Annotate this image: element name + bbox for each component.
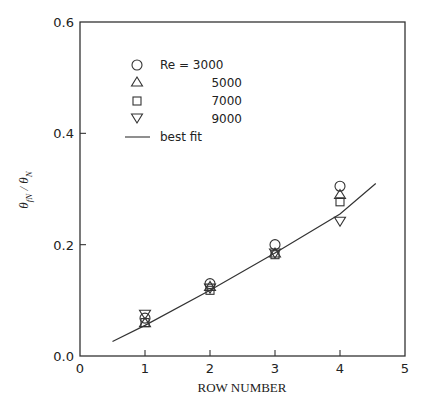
y-tick-label: 0.2 [53,238,74,253]
axis-ticks [80,133,340,356]
legend-item-re7000: 7000 [133,94,242,108]
square-marker-icon [133,97,141,105]
legend-item-re5000: 5000 [132,76,243,90]
y-tick-label: 0.0 [53,349,74,364]
svg-text:9000: 9000 [211,112,242,126]
legend-item-best-fit: best fit [125,130,202,144]
axis-tick-labels: 0123450.00.20.40.6 [53,15,409,376]
svg-text:7000: 7000 [211,94,242,108]
plot-frame [80,22,405,356]
svg-text:5000: 5000 [211,76,242,90]
triangle-down-marker-icon [335,217,346,226]
x-axis-title: ROW NUMBER [198,380,287,395]
legend-item-re3000: Re = 3000 [132,58,223,72]
legend-item-re9000: 9000 [132,112,243,126]
svg-text:best fit: best fit [160,130,202,144]
y-tick-label: 0.4 [53,126,74,141]
data-markers [140,181,346,326]
best-fit-curve [113,183,376,341]
x-tick-label: 5 [401,361,409,376]
x-tick-label: 2 [206,361,214,376]
y-axis-title: θfN / θN [16,170,34,208]
x-tick-label: 0 [76,361,84,376]
chart: 0123450.00.20.40.6 ROW NUMBER θfN / θN R… [0,0,426,411]
triangle-down-marker-icon [132,114,143,123]
circle-marker-icon [132,60,142,70]
svg-text:θfN / θN: θfN / θN [16,170,34,208]
triangle-up-marker-icon [132,77,143,86]
x-tick-label: 3 [271,361,279,376]
svg-text:Re = 3000: Re = 3000 [160,58,223,72]
x-tick-label: 4 [336,361,344,376]
best-fit-line [113,183,376,341]
y-title-slash-theta: / θ [16,177,31,194]
y-title-sub-n: N [24,170,34,178]
x-tick-label: 1 [141,361,149,376]
legend: Re = 3000 5000 7000 9000 best fit [125,58,242,144]
y-tick-label: 0.6 [53,15,74,30]
